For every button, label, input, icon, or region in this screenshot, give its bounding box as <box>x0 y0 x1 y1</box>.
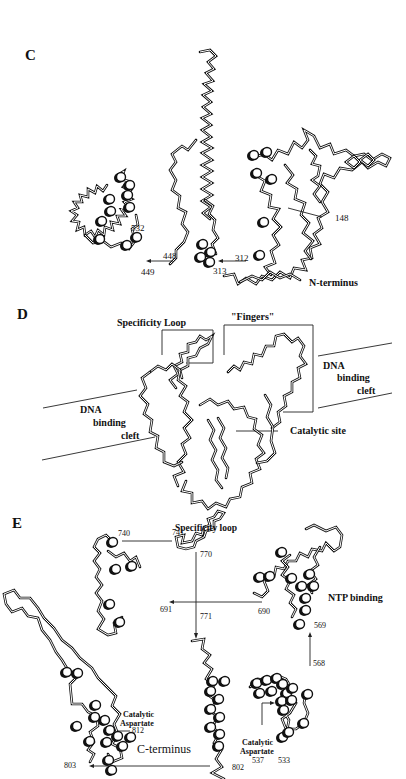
panel-c: C <box>0 0 406 300</box>
residue-label-537: 537 <box>252 757 264 765</box>
residue-label-532: 532 <box>131 224 145 233</box>
catalytic-site-label: Catalytic site <box>290 425 346 437</box>
dna-cleft-right-label-line1: DNA <box>323 360 345 372</box>
dna-cleft-right-label-line2: binding <box>337 372 370 384</box>
dna-cleft-right-label-line3: cleft <box>357 385 375 397</box>
residue-label-740: 740 <box>118 530 130 538</box>
fingers-label: "Fingers" <box>231 311 274 323</box>
fragment-533-568 <box>250 674 313 744</box>
residue-label-533: 533 <box>278 757 290 765</box>
domain-313-448-trace <box>170 50 218 264</box>
residue-label-569: 569 <box>314 622 326 630</box>
dna-cleft-right-lower-line <box>318 393 392 408</box>
fragment-c-terminus <box>4 590 136 776</box>
dna-cleft-right-upper-line <box>318 343 392 356</box>
panel-d-structure <box>0 300 406 515</box>
c-terminus-label: C-terminus <box>137 743 191 755</box>
polymerase-backbone-trace <box>140 334 306 509</box>
residue-label-690: 690 <box>258 608 270 616</box>
domain-n-terminal-atoms <box>247 148 277 262</box>
panel-d: D Specificit <box>0 300 406 515</box>
residue-label-802: 802 <box>232 764 244 772</box>
residue-label-312: 312 <box>235 254 249 263</box>
residue-label-812: 812 <box>132 727 144 735</box>
ntp-binding-label: NTP binding <box>328 592 383 604</box>
fragment-771-802-helix <box>192 639 230 779</box>
dna-cleft-left-label-line1: DNA <box>80 404 102 416</box>
domain-449-532-atoms <box>93 173 142 252</box>
specificity-loop-label-e: Specificity loop <box>175 523 237 534</box>
panel-c-structures <box>0 0 406 300</box>
n-terminus-label: N-terminus <box>309 277 358 289</box>
residue-label-449: 449 <box>141 268 155 277</box>
residue-label-770: 770 <box>200 551 212 559</box>
residue-label-148: 148 <box>335 214 349 223</box>
panel-e: E <box>0 515 406 779</box>
residue-label-568: 568 <box>313 660 325 668</box>
residue-label-448: 448 <box>163 252 177 261</box>
specificity-loop-label: Specificity Loop <box>117 317 186 329</box>
dna-cleft-left-label-line2: binding <box>93 417 126 429</box>
residue-label-741: 741 <box>172 529 184 537</box>
residue-label-691: 691 <box>160 606 172 614</box>
dna-cleft-left-label-line3: cleft <box>121 430 139 442</box>
residue-label-771: 771 <box>200 613 212 621</box>
residue-label-313: 313 <box>213 267 227 276</box>
fragment-691-740 <box>94 535 140 635</box>
residue-label-803: 803 <box>64 762 76 770</box>
